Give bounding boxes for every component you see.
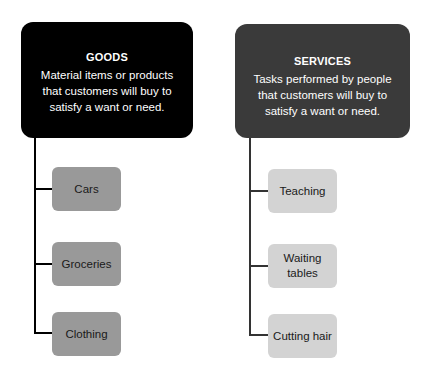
goods-item-label: Clothing [65,327,107,342]
goods-description: Material items or products that customer… [21,67,193,115]
goods-connector-clothing [34,332,53,334]
goods-header-box: GOODS Material items or products that cu… [21,22,193,138]
goods-title: GOODS [21,51,193,63]
services-item-teaching: Teaching [268,169,337,213]
services-item-label: Waiting tables [278,251,327,281]
goods-item-label: Groceries [62,257,112,272]
services-item-waiting-tables: Waiting tables [268,244,337,288]
goods-connector-vertical [34,138,36,334]
services-description: Tasks performed by people that customers… [235,71,410,119]
goods-connector-cars [34,188,53,190]
services-connector-cutting-hair [249,334,269,336]
services-connector-vertical [249,138,251,335]
goods-connector-groceries [34,263,53,265]
services-item-cutting-hair: Cutting hair [268,314,337,358]
goods-item-label: Cars [74,182,98,197]
services-item-label: Teaching [279,184,325,199]
services-title: SERVICES [235,55,410,67]
services-connector-teaching [249,190,269,192]
services-header-box: SERVICES Tasks performed by people that … [235,24,410,138]
goods-item-cars: Cars [52,167,121,211]
goods-item-clothing: Clothing [52,312,121,356]
services-item-label: Cutting hair [273,329,332,344]
goods-item-groceries: Groceries [52,242,121,286]
services-connector-waiting-tables [249,265,269,267]
